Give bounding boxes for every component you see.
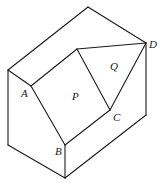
geometric-solid-diagram: A B C D P Q — [0, 0, 163, 188]
label-C: C — [113, 111, 121, 123]
edge-A-Ptop — [31, 49, 77, 86]
edge-Ptop-C — [77, 49, 110, 110]
edge-bottom-rightbottom — [65, 115, 146, 178]
edge-Ptop-D — [77, 43, 146, 49]
edge-A-B — [31, 86, 65, 145]
edge-top-D — [88, 7, 146, 43]
label-D: D — [148, 38, 157, 50]
edge-C-B — [65, 110, 110, 145]
label-A: A — [20, 87, 28, 99]
edge-D-C — [110, 43, 146, 110]
label-B: B — [55, 145, 62, 157]
edge-lefttop-top — [8, 7, 88, 70]
label-face-P: P — [71, 90, 79, 102]
label-face-Q: Q — [110, 60, 118, 72]
edge-lefttop-A — [8, 70, 31, 86]
